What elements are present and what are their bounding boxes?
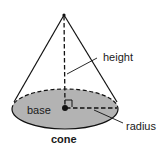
- cone-diagram: height radius base cone: [0, 0, 166, 149]
- base-label: base: [27, 104, 51, 116]
- base-center-point: [62, 105, 68, 111]
- diagram-title: cone: [51, 133, 77, 145]
- height-label: height: [103, 51, 133, 63]
- radius-label: radius: [126, 120, 156, 132]
- height-leader-line: [67, 58, 97, 74]
- cone-left-side: [14, 15, 64, 102]
